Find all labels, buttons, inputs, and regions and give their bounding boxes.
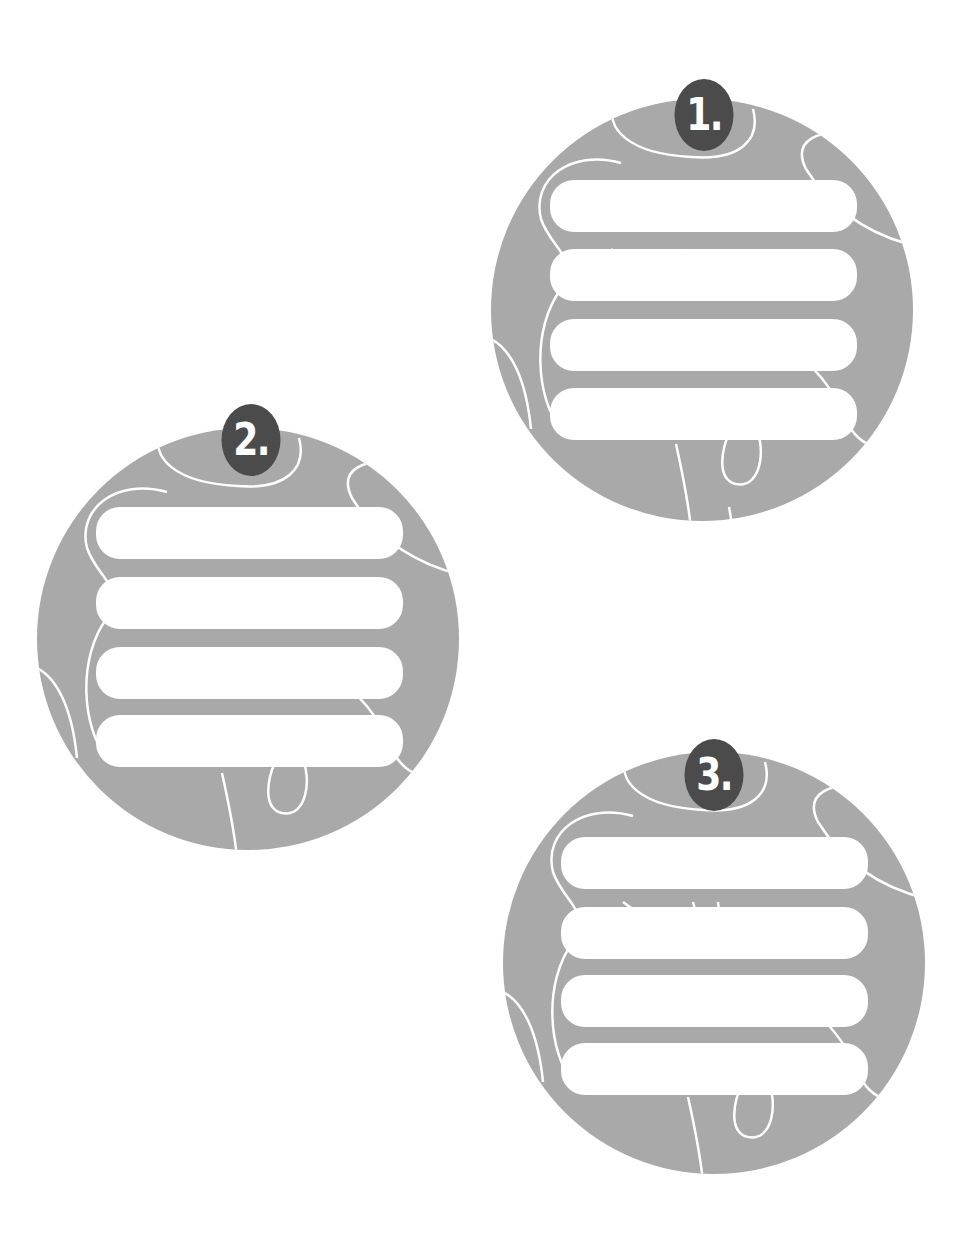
entry-bar-1 bbox=[561, 837, 868, 889]
entry-bar-2 bbox=[550, 249, 857, 301]
step-badge-3: 3. bbox=[684, 739, 743, 811]
entry-bar-4 bbox=[550, 388, 857, 440]
disc-2 bbox=[37, 428, 459, 850]
entry-bar-2 bbox=[561, 907, 868, 959]
entry-bar-3 bbox=[96, 647, 403, 699]
entry-bar-3 bbox=[550, 319, 857, 371]
entry-bar-4 bbox=[96, 715, 403, 767]
disc-background-pattern bbox=[37, 428, 459, 850]
entry-bar-4 bbox=[561, 1043, 868, 1095]
disc-background-pattern bbox=[491, 99, 913, 521]
disc-3 bbox=[503, 752, 925, 1174]
entry-bar-3 bbox=[561, 975, 868, 1027]
entry-bar-1 bbox=[550, 180, 857, 232]
entry-bar-2 bbox=[96, 577, 403, 629]
entry-bar-1 bbox=[96, 507, 403, 559]
disc-1 bbox=[491, 99, 913, 521]
disc-background-pattern bbox=[503, 752, 925, 1174]
step-badge-1: 1. bbox=[674, 79, 733, 151]
step-badge-2: 2. bbox=[221, 404, 280, 476]
